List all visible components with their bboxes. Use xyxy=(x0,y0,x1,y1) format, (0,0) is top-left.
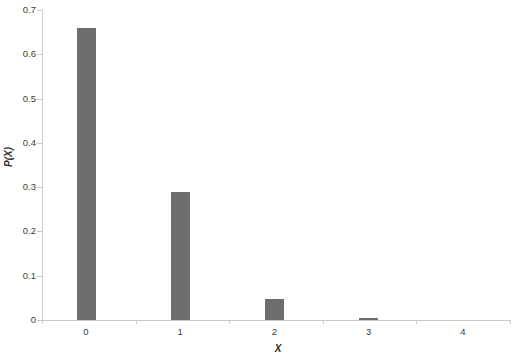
bar xyxy=(77,28,96,320)
y-axis-tick-mark xyxy=(37,10,42,11)
y-axis-tick-label: 0.1 xyxy=(2,271,36,281)
x-axis-tick-mark xyxy=(229,320,230,324)
y-axis-tick-label: 0.5 xyxy=(2,94,36,104)
x-axis-tick-mark xyxy=(323,320,324,324)
x-axis-tick-label: 3 xyxy=(349,327,389,337)
y-axis-tick-mark xyxy=(37,54,42,55)
x-axis-tick-label: 4 xyxy=(443,327,483,337)
bar xyxy=(265,299,284,320)
y-axis-tick-mark xyxy=(37,231,42,232)
bar xyxy=(359,318,378,320)
x-axis-tick-mark xyxy=(510,320,511,324)
y-axis-tick-mark xyxy=(37,143,42,144)
y-axis-tick-mark xyxy=(37,99,42,100)
probability-distribution-bar-chart: 00.10.20.30.40.50.60.7 01234 X P(X) xyxy=(0,0,515,362)
x-axis-tick-mark xyxy=(136,320,137,324)
y-axis-tick-label: 0.6 xyxy=(2,49,36,59)
y-axis-tick-label: 0.7 xyxy=(2,5,36,15)
x-axis-tick-label: 2 xyxy=(254,327,294,337)
x-axis-line xyxy=(42,320,511,321)
y-axis-tick-mark xyxy=(37,187,42,188)
x-axis-tick-label: 0 xyxy=(66,327,106,337)
x-axis-title: X xyxy=(238,344,318,354)
y-axis-line xyxy=(42,10,43,321)
y-axis-title: P(X) xyxy=(4,127,14,187)
x-axis-tick-label: 1 xyxy=(160,327,200,337)
y-axis-tick-label: 0 xyxy=(2,315,36,325)
y-axis-tick-label: 0.2 xyxy=(2,226,36,236)
x-axis-tick-mark xyxy=(42,320,43,324)
bar xyxy=(171,192,190,320)
y-axis-tick-mark xyxy=(37,276,42,277)
x-axis-tick-mark xyxy=(416,320,417,324)
